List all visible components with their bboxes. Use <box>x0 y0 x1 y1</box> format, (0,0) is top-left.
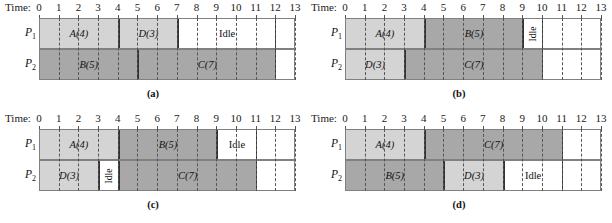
row-label-subscript: 1 <box>32 143 36 152</box>
gridline-13 <box>295 18 296 80</box>
tick-label-10: 10 <box>533 112 551 124</box>
tick-label-12: 12 <box>572 1 590 13</box>
tick-label-5: 5 <box>434 112 452 124</box>
row-label-p2: P2 <box>316 57 342 72</box>
tick-label-7: 7 <box>168 112 186 124</box>
task-block-a4: A(4) <box>346 19 425 48</box>
tick-label-12: 12 <box>572 112 590 124</box>
gantt-panel-b: Time:012345678910111213A(4)B(5)IdleD(3)C… <box>306 0 612 111</box>
row-label-text: P <box>331 168 338 180</box>
task-block-d3: D(3) <box>444 161 503 190</box>
task-block-label: B(5) <box>79 59 98 70</box>
task-block-d3: D(3) <box>346 50 405 79</box>
tick-label-2: 2 <box>375 1 393 13</box>
tick-label-8: 8 <box>188 112 206 124</box>
processor-track-1: A(4)B(5)Idle <box>39 129 295 160</box>
tick-label-6: 6 <box>148 1 166 13</box>
task-block-b5: B(5) <box>425 19 523 48</box>
row-label-text: P <box>331 57 338 69</box>
gridline-13 <box>601 18 602 80</box>
tick-label-5: 5 <box>128 112 146 124</box>
task-block-a4: A(4) <box>346 130 425 159</box>
time-axis: Time:012345678910111213 <box>306 1 606 17</box>
task-block-b5: B(5) <box>346 161 444 190</box>
row-label-p2: P2 <box>316 168 342 183</box>
processor-track-1: A(4)B(5)Idle <box>345 18 601 49</box>
task-block-c7: C(7) <box>425 130 563 159</box>
task-block-label: B(5) <box>159 139 178 150</box>
row-label-subscript: 2 <box>338 63 342 72</box>
task-block-c7: C(7) <box>138 50 276 79</box>
panel-caption: (d) <box>306 199 612 210</box>
row-label-text: P <box>25 168 32 180</box>
tick-label-6: 6 <box>454 112 472 124</box>
row-label-text: P <box>25 137 32 149</box>
task-block-label: Idle <box>525 170 541 181</box>
task-block-label: D(3) <box>365 59 385 70</box>
gantt-panel-d: Time:012345678910111213A(4)C(7)B(5)D(3)I… <box>306 111 612 222</box>
tick-label-2: 2 <box>69 112 87 124</box>
tick-label-9: 9 <box>207 1 225 13</box>
row-label-text: P <box>25 26 32 38</box>
time-axis-label: Time: <box>5 112 31 124</box>
task-block-idle: Idle <box>178 19 276 48</box>
row-label-subscript: 2 <box>32 63 36 72</box>
tick-label-1: 1 <box>356 1 374 13</box>
tick-label-13: 13 <box>592 112 610 124</box>
tick-label-2: 2 <box>375 112 393 124</box>
tick-label-4: 4 <box>109 112 127 124</box>
time-axis-label: Time: <box>311 1 337 13</box>
task-block-label: D(3) <box>138 28 158 39</box>
row-label-subscript: 2 <box>338 174 342 183</box>
time-axis: Time:012345678910111213 <box>0 112 300 128</box>
row-label-p1: P1 <box>316 137 342 152</box>
panel-caption: (c) <box>0 199 306 210</box>
task-block-label: D(3) <box>464 170 484 181</box>
task-block-c7: C(7) <box>405 50 543 79</box>
task-block-idle: Idle <box>504 161 563 190</box>
tick-label-13: 13 <box>286 112 304 124</box>
task-block-label: B(5) <box>465 28 484 39</box>
task-block-idle: Idle <box>523 19 543 48</box>
row-label-p1: P1 <box>10 137 36 152</box>
row-label-p2: P2 <box>10 168 36 183</box>
tick-label-11: 11 <box>553 112 571 124</box>
task-block-c7: C(7) <box>119 161 257 190</box>
tick-label-3: 3 <box>89 112 107 124</box>
time-axis-label: Time: <box>5 1 31 13</box>
task-block-a4: A(4) <box>40 19 119 48</box>
tick-label-13: 13 <box>286 1 304 13</box>
row-label-subscript: 1 <box>338 143 342 152</box>
tick-label-0: 0 <box>336 1 354 13</box>
task-block-label: B(5) <box>385 170 404 181</box>
gridline-13 <box>601 129 602 191</box>
row-label-text: P <box>25 57 32 69</box>
tick-label-10: 10 <box>227 1 245 13</box>
tick-label-9: 9 <box>513 1 531 13</box>
row-label-subscript: 1 <box>338 32 342 41</box>
tick-label-0: 0 <box>30 1 48 13</box>
tick-label-6: 6 <box>148 112 166 124</box>
task-block-label: Idle <box>219 28 235 39</box>
task-block-d3: D(3) <box>119 19 178 48</box>
processor-track-1: A(4)D(3)Idle <box>39 18 295 49</box>
tick-label-7: 7 <box>474 112 492 124</box>
tick-label-11: 11 <box>247 1 265 13</box>
row-label-p2: P2 <box>10 57 36 72</box>
tick-label-6: 6 <box>454 1 472 13</box>
tick-label-4: 4 <box>109 1 127 13</box>
tick-label-9: 9 <box>207 112 225 124</box>
task-block-label: A(4) <box>70 28 89 39</box>
row-label-subscript: 1 <box>32 32 36 41</box>
task-block-label: C(7) <box>484 139 503 150</box>
task-block-label: D(3) <box>59 170 79 181</box>
tick-label-3: 3 <box>395 1 413 13</box>
tick-label-2: 2 <box>69 1 87 13</box>
task-block-label: C(7) <box>178 170 197 181</box>
task-block-a4: A(4) <box>40 130 119 159</box>
time-axis-label: Time: <box>311 112 337 124</box>
task-block-b5: B(5) <box>40 50 138 79</box>
tick-label-7: 7 <box>474 1 492 13</box>
tick-label-10: 10 <box>227 112 245 124</box>
row-label-subscript: 2 <box>32 174 36 183</box>
